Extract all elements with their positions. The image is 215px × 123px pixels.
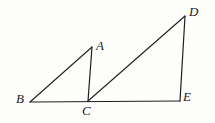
vertex-label-e: E	[183, 90, 191, 103]
segment-BA	[30, 47, 92, 102]
segment-BE	[30, 101, 180, 102]
vertex-label-c: C	[82, 104, 91, 117]
vertex-label-d: D	[189, 5, 198, 18]
segment-AC	[88, 47, 92, 101]
vertex-label-b: B	[16, 92, 24, 105]
vertex-label-a: A	[96, 39, 104, 52]
figure-canvas	[0, 0, 215, 123]
geometry-figure: A B C D E	[0, 0, 215, 123]
segment-CD	[88, 16, 185, 101]
